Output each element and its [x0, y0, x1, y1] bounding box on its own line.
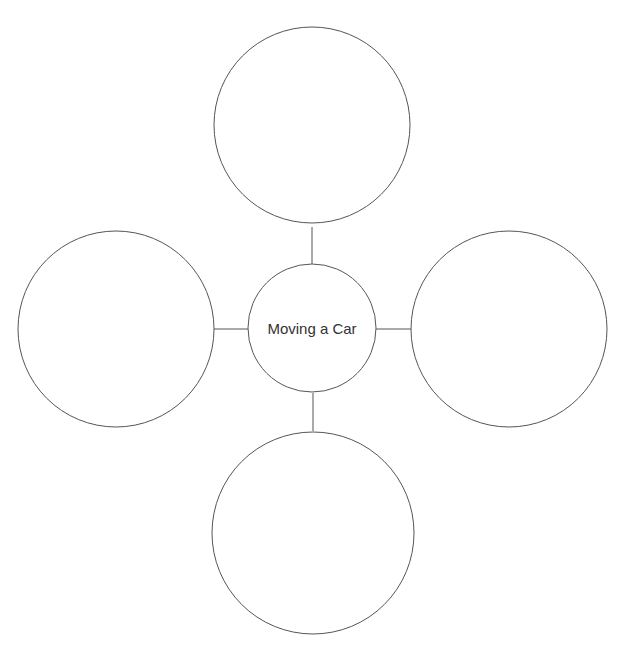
bubble-map-diagram: Moving a Car [0, 0, 630, 661]
branch-circle-bottom[interactable] [212, 432, 414, 634]
center-label: Moving a Car [267, 320, 356, 337]
branch-circle-right[interactable] [411, 231, 607, 427]
branch-circle-top[interactable] [214, 27, 410, 223]
branch-circle-left[interactable] [18, 231, 214, 427]
